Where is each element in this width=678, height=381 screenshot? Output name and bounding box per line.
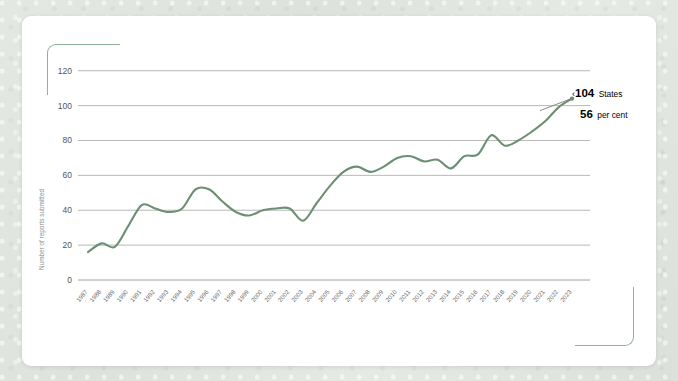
x-tick-label: 2013 [424, 288, 439, 303]
x-tick-label: 1995 [182, 288, 197, 303]
x-tick-label: 2012 [411, 288, 426, 303]
x-tick-label: 2011 [398, 288, 412, 303]
x-tick-label: 1988 [88, 288, 103, 303]
x-tick-label: 2006 [330, 288, 345, 303]
annotation-percent: 56 per cent [580, 104, 628, 122]
x-tick-label: 1996 [196, 288, 211, 303]
y-tick-label: 80 [63, 135, 73, 145]
annotation-states: ‹104 States [572, 83, 622, 101]
x-tick-label: 2009 [370, 288, 385, 303]
chart-plot-area: 020406080100120 198719881989199019911992… [0, 0, 678, 381]
x-tick-label: 1993 [155, 288, 170, 303]
annotation-percent-value: 56 [580, 108, 593, 120]
annotation-percent-label: per cent [597, 110, 627, 120]
x-tick-label: 2023 [559, 288, 574, 303]
annotation-states-label: States [599, 89, 623, 99]
x-axis-ticks: 1987198819891990199119921993199419951996… [75, 288, 574, 303]
x-tick-label: 1990 [115, 288, 130, 303]
x-tick-label: 1991 [128, 288, 143, 303]
x-tick-label: 1998 [222, 288, 237, 303]
y-axis-title: Number of reports submitted [38, 189, 46, 270]
x-tick-label: 1994 [169, 288, 184, 303]
x-tick-label: 2022 [545, 288, 560, 303]
x-tick-label: 2020 [518, 288, 533, 303]
y-tick-label: 60 [63, 170, 73, 180]
x-tick-label: 2004 [303, 288, 318, 303]
x-tick-label: 1989 [101, 288, 116, 303]
x-tick-label: 2019 [505, 288, 520, 303]
y-tick-label: 120 [58, 66, 72, 76]
x-tick-label: 2005 [317, 288, 332, 303]
x-tick-label: 1999 [236, 288, 251, 303]
annotation-states-value: 104 [575, 87, 594, 99]
line-chart: 020406080100120 198719881989199019911992… [0, 0, 678, 381]
x-tick-label: 2000 [249, 288, 264, 303]
x-tick-label: 2014 [438, 288, 453, 303]
x-tick-label: 1997 [209, 288, 224, 303]
y-tick-label: 0 [67, 275, 72, 285]
x-tick-label: 2017 [478, 288, 493, 303]
x-tick-label: 2010 [384, 288, 399, 303]
x-tick-label: 2007 [343, 288, 358, 303]
x-tick-label: 2021 [532, 288, 547, 303]
x-tick-label: 2003 [290, 288, 305, 303]
y-axis-ticks: 020406080100120 [58, 66, 72, 285]
x-tick-label: 1992 [142, 288, 157, 303]
x-tick-label: 2002 [276, 288, 291, 303]
x-tick-label: 2016 [464, 288, 479, 303]
y-tick-label: 20 [63, 240, 73, 250]
y-tick-label: 40 [63, 205, 73, 215]
gridlines [78, 71, 590, 280]
x-tick-label: 1987 [75, 288, 90, 303]
x-tick-label: 2001 [263, 288, 278, 303]
x-tick-label: 2018 [491, 288, 506, 303]
x-tick-label: 2008 [357, 288, 372, 303]
y-tick-label: 100 [58, 101, 72, 111]
x-tick-label: 2015 [451, 288, 466, 303]
